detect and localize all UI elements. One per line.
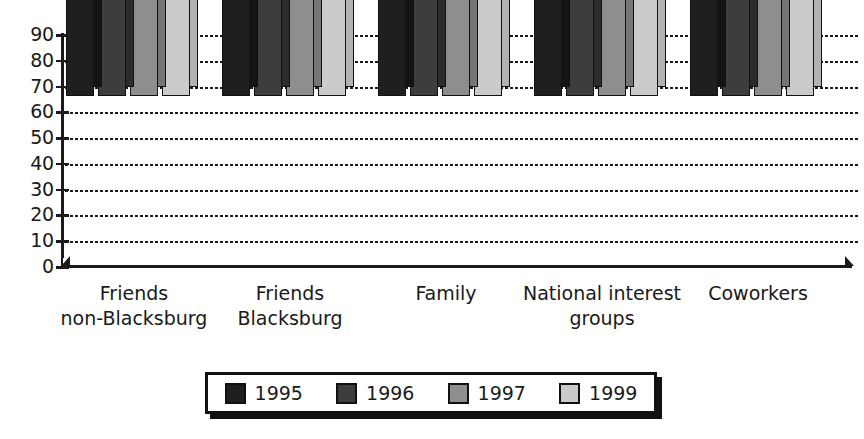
legend-label: 1995: [255, 383, 303, 404]
bar-side-face: [717, 0, 726, 87]
bar: [754, 0, 782, 96]
bar-side-face: [593, 0, 602, 87]
bar-side-face: [313, 0, 322, 87]
bar-side-face: [749, 0, 758, 87]
category-label-line: Coworkers: [648, 281, 864, 306]
bar-front-face: [222, 0, 250, 96]
bar-side-face: [657, 0, 666, 87]
bar: [378, 0, 406, 96]
bar: [474, 0, 502, 96]
category-label-line: groups: [492, 306, 712, 331]
bar: [318, 0, 346, 96]
bar-front-face: [598, 0, 626, 96]
bar: [222, 0, 250, 96]
legend-item[interactable]: 1996: [336, 383, 414, 404]
bar-side-face: [249, 0, 258, 87]
bar-front-face: [754, 0, 782, 96]
bar-front-face: [534, 0, 562, 96]
bar-front-face: [410, 0, 438, 96]
bar-front-face: [566, 0, 594, 96]
bar: [534, 0, 562, 96]
bar-group: [534, 0, 662, 268]
bar-group: [378, 0, 506, 268]
bar: [286, 0, 314, 96]
bar-front-face: [130, 0, 158, 96]
legend-item[interactable]: 1999: [559, 383, 637, 404]
bar-front-face: [630, 0, 658, 96]
bar: [442, 0, 470, 96]
bar-side-face: [93, 0, 102, 87]
legend-swatch: [559, 383, 580, 404]
bar-side-face: [157, 0, 166, 87]
bar-side-face: [501, 0, 510, 87]
bar-front-face: [690, 0, 718, 96]
bar-front-face: [162, 0, 190, 96]
legend-item[interactable]: 1997: [448, 383, 526, 404]
bar-front-face: [722, 0, 750, 96]
bar-side-face: [813, 0, 822, 87]
bar: [690, 0, 718, 96]
bar-front-face: [286, 0, 314, 96]
bar-front-face: [318, 0, 346, 96]
legend-label: 1997: [478, 383, 526, 404]
bar-front-face: [66, 0, 94, 96]
bar-side-face: [781, 0, 790, 87]
bar-side-face: [437, 0, 446, 87]
legend-swatch: [225, 383, 246, 404]
bar-side-face: [189, 0, 198, 87]
bar-side-face: [125, 0, 134, 87]
bar-front-face: [378, 0, 406, 96]
bar-group: [66, 0, 194, 268]
bar: [786, 0, 814, 96]
bar: [66, 0, 94, 96]
bar-chart: 9080706050403020100 Friendsnon-Blacksbur…: [0, 0, 864, 439]
bar-side-face: [625, 0, 634, 87]
bar-side-face: [281, 0, 290, 87]
chart-legend: 1995199619971999: [205, 372, 657, 414]
bar-front-face: [786, 0, 814, 96]
bar: [566, 0, 594, 96]
bar: [630, 0, 658, 96]
bar-front-face: [474, 0, 502, 96]
legend-label: 1999: [589, 383, 637, 404]
bar-front-face: [98, 0, 126, 96]
legend-swatch: [336, 383, 357, 404]
bar: [98, 0, 126, 96]
bar: [162, 0, 190, 96]
x-axis-category-label: Coworkers: [648, 281, 864, 306]
bar-group: [690, 0, 818, 268]
bar-front-face: [442, 0, 470, 96]
bar-side-face: [469, 0, 478, 87]
bar-side-face: [345, 0, 354, 87]
bar-group: [222, 0, 350, 268]
bar: [598, 0, 626, 96]
bar: [410, 0, 438, 96]
bar-side-face: [561, 0, 570, 87]
legend-item[interactable]: 1995: [225, 383, 303, 404]
bar-front-face: [254, 0, 282, 96]
bar: [130, 0, 158, 96]
category-label-line: Blacksburg: [180, 306, 400, 331]
x-axis-category-labels: Friendsnon-BlacksburgFriendsBlacksburgFa…: [0, 281, 864, 351]
legend-label: 1996: [366, 383, 414, 404]
legend-swatch: [448, 383, 469, 404]
bar: [254, 0, 282, 96]
bar: [722, 0, 750, 96]
bar-side-face: [405, 0, 414, 87]
